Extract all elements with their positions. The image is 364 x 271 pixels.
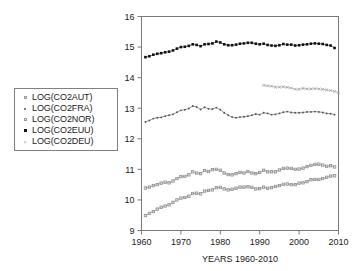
svg-text:2010: 2010 xyxy=(328,237,348,247)
series-logco2aut xyxy=(144,163,336,189)
legend-marker-open-square-icon xyxy=(20,96,30,99)
legend-item-label: LOG(CO2EUU) xyxy=(30,125,93,136)
svg-text:2000: 2000 xyxy=(289,237,309,247)
chart-container: 161514131211109 196019701980199020002010… xyxy=(0,0,364,271)
legend-item-logco2euu[interactable]: LOG(CO2EUU) xyxy=(17,125,115,136)
legend-item-label: LOG(CO2AUT) xyxy=(30,92,92,103)
svg-text:14: 14 xyxy=(124,73,134,83)
legend-item-logco2fra[interactable]: LOG(CO2FRA) xyxy=(17,103,115,114)
legend-marker-open-square-icon xyxy=(20,118,30,121)
svg-text:13: 13 xyxy=(124,104,134,114)
legend-marker-filled-square-icon xyxy=(20,129,30,132)
svg-text:12: 12 xyxy=(124,134,134,144)
series-logco2deu xyxy=(262,84,340,94)
svg-text:10: 10 xyxy=(124,195,134,205)
svg-text:YEARS 1960-2010: YEARS 1960-2010 xyxy=(202,254,278,264)
svg-text:1960: 1960 xyxy=(131,237,151,247)
legend-marker-small-dot-icon xyxy=(20,108,30,110)
legend-item-label: LOG(CO2DEU) xyxy=(30,136,93,147)
y-axis-tick-labels: 161514131211109 xyxy=(124,12,134,236)
svg-text:16: 16 xyxy=(124,12,134,22)
legend-item-label: LOG(CO2FRA) xyxy=(30,103,92,114)
series-logco2fra xyxy=(144,105,335,123)
legend-item-logco2nor[interactable]: LOG(CO2NOR) xyxy=(17,114,115,125)
legend-item-label: LOG(CO2NOR) xyxy=(30,114,94,125)
legend-item-logco2deu[interactable]: ×LOG(CO2DEU) xyxy=(17,136,115,147)
svg-text:1980: 1980 xyxy=(210,237,230,247)
legend-item-logco2aut[interactable]: LOG(CO2AUT) xyxy=(17,92,115,103)
svg-text:11: 11 xyxy=(125,165,134,175)
svg-text:1990: 1990 xyxy=(250,237,270,247)
chart-legend: LOG(CO2AUT)LOG(CO2FRA)LOG(CO2NOR)LOG(CO2… xyxy=(14,88,118,151)
x-axis-tick-labels: 196019701980199020002010 xyxy=(131,237,348,247)
series-logco2euu xyxy=(144,40,336,58)
legend-marker-x-mark-icon: × xyxy=(20,140,30,144)
axis-ticks xyxy=(138,17,339,235)
svg-text:15: 15 xyxy=(124,42,134,52)
svg-text:1970: 1970 xyxy=(171,237,191,247)
data-series-group xyxy=(144,40,340,216)
x-axis-title: YEARS 1960-2010 xyxy=(202,254,278,264)
plot-frame xyxy=(142,17,339,231)
svg-text:9: 9 xyxy=(129,226,134,236)
